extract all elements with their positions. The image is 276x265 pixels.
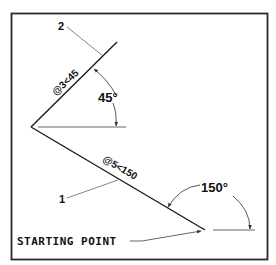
starting-point-label: STARTING POINT [17,235,117,248]
angle-arc-150-lower-icon [233,196,250,229]
angle-45-label: 45° [98,90,118,105]
callout-2-label: 2 [58,20,64,32]
line-1-dimension-label: @5<150 [101,153,140,182]
callout-1-leader [67,180,118,198]
callout-1-label: 1 [59,193,65,205]
line-2-segment [31,42,117,127]
line-1-segment [31,127,205,230]
diagram-border [12,14,268,260]
angle-arc-45-lower-icon [113,103,116,126]
start-point-leader [130,231,201,241]
angle-arc-150-icon [168,185,200,207]
angle-150-label: 150° [201,180,228,195]
callout-2-leader [67,27,103,56]
polar-coordinates-diagram: 2 1 @3<45 @5<150 45° 150° STARTING POINT [0,0,276,265]
